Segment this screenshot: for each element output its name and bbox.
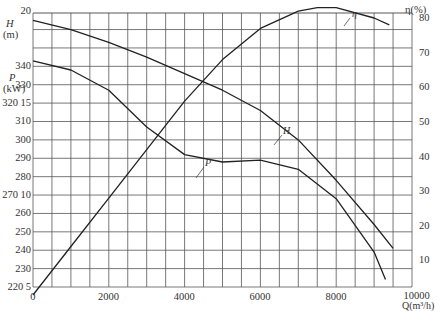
left-tick-label: 310 [15, 115, 31, 126]
right-tick-label: 50 [419, 116, 430, 127]
x-tick-label: 4000 [174, 291, 195, 302]
h-curve-label: H [283, 125, 290, 136]
left-tick-label: 250 [15, 226, 31, 237]
x-tick-label: 8000 [325, 291, 346, 302]
h-axis-unit: (m) [3, 29, 18, 40]
left-tick-label: 290 [15, 152, 31, 163]
left-tick-label: 220 5 [7, 281, 31, 292]
right-tick-label: 70 [419, 47, 430, 58]
left-tick-label: 20 [21, 5, 32, 16]
left-tick-label: 270 10 [2, 189, 31, 200]
right-tick-label: 80 [419, 12, 430, 23]
x-tick-label: 2000 [98, 291, 119, 302]
pump-performance-chart [0, 0, 444, 311]
p-curve-label: P [205, 157, 211, 168]
x-tick-label: 6000 [250, 291, 271, 302]
right-tick-label: 20 [419, 220, 430, 231]
left-tick-label: 330 [15, 79, 31, 90]
left-tick-label: 340 [15, 60, 31, 71]
left-tick-label: 230 [15, 263, 31, 274]
left-tick-label: 300 [15, 134, 31, 145]
left-tick-label: 280 [15, 171, 31, 182]
left-tick-label: 260 [15, 207, 31, 218]
x-axis-label: Q(m³/h) [402, 300, 434, 311]
h-curve [33, 20, 393, 248]
right-tick-label: 60 [419, 81, 430, 92]
x-tick-label: 10000 [404, 290, 430, 301]
left-tick-label: 240 [15, 244, 31, 255]
eta-curve-label: η [352, 8, 357, 19]
left-tick-label: 320 15 [2, 97, 31, 108]
right-tick-label: 40 [419, 151, 430, 162]
right-tick-label: 30 [419, 185, 430, 196]
right-tick-label: 10 [419, 254, 430, 265]
h-axis-label: H [6, 18, 14, 29]
p-curve [33, 61, 386, 280]
x-tick-label: 0 [30, 291, 35, 302]
